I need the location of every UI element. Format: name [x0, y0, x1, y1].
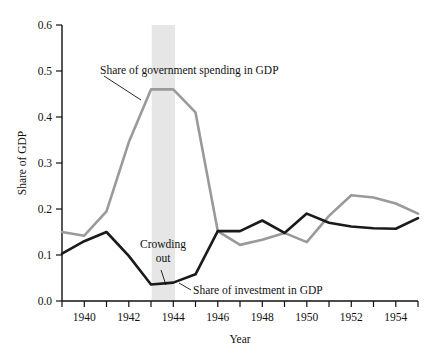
x-axis-title: Year	[229, 333, 250, 345]
x-tick-label: 1944	[162, 311, 185, 323]
y-axis-ticks	[56, 25, 62, 301]
series-line-investment	[62, 214, 418, 285]
leader-line-investment	[179, 283, 191, 290]
y-axis-title: Share of GDP	[16, 131, 28, 196]
y-tick-label: 0.4	[38, 111, 53, 123]
x-tick-label: 1950	[295, 311, 318, 323]
annotation-investment: Share of investment in GDP	[193, 284, 323, 296]
y-tick-label: 0.1	[38, 249, 53, 261]
leader-line-government-spending	[104, 76, 141, 100]
y-tick-label: 0.6	[38, 19, 53, 31]
chart-figure: 0.6 0.5 0.4 0.3 0.2 0.1 0.0 1940 1942 19…	[0, 0, 440, 360]
annotation-government-spending: Share of government spending in GDP	[100, 64, 279, 77]
y-tick-label: 0.2	[38, 203, 53, 215]
series-line-government-spending	[62, 89, 418, 244]
x-tick-label: 1952	[340, 311, 363, 323]
x-axis-ticks	[62, 301, 418, 307]
y-axis-tick-labels: 0.6 0.5 0.4 0.3 0.2 0.1 0.0	[38, 19, 53, 307]
annotation-crowding: Crowding	[140, 238, 186, 251]
x-tick-label: 1946	[206, 311, 229, 323]
x-tick-label: 1954	[384, 311, 407, 323]
x-axis-tick-labels: 1940 1942 1944 1946 1948 1950 1952 1954	[73, 311, 408, 323]
x-tick-label: 1940	[73, 311, 96, 323]
y-tick-label: 0.5	[38, 65, 53, 77]
y-tick-label: 0.0	[38, 295, 53, 307]
annotation-crowding-out: out	[156, 252, 172, 264]
y-tick-label: 0.3	[38, 157, 53, 169]
x-tick-label: 1948	[251, 311, 274, 323]
x-tick-label: 1942	[117, 311, 140, 323]
